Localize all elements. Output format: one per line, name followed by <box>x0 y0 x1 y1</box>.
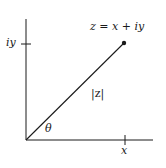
complex-plane-diagram: z = x + iy |z| θ x iy <box>0 0 166 168</box>
modulus-label: |z| <box>91 88 104 99</box>
real-axis-x-label: x <box>121 145 127 156</box>
modulus-vector <box>26 43 124 140</box>
point-z-marker <box>122 41 126 45</box>
angle-theta-label: θ <box>45 123 52 134</box>
point-z-label: z = x + iy <box>90 21 144 32</box>
imaginary-axis-iy-label: iy <box>6 37 16 48</box>
